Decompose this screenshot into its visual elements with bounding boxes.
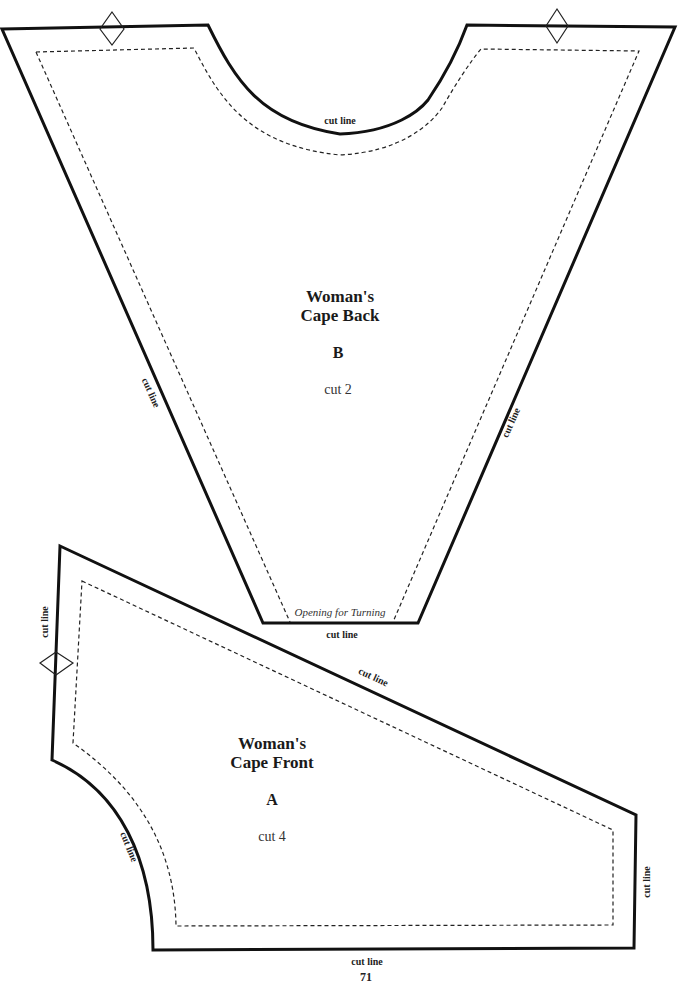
front-cut-count: cut 4: [258, 829, 286, 844]
front-left-cut-label: cut line: [39, 606, 50, 638]
front-title-line2: Cape Front: [230, 753, 314, 772]
cape-back-seam-line-left: [36, 52, 290, 622]
cape-back-piece: cut line cut line cut line cut line Open…: [2, 9, 675, 640]
front-right-cut-label: cut line: [641, 866, 652, 898]
back-title-line1: Woman's: [306, 287, 374, 306]
page-number: 71: [360, 970, 372, 984]
pattern-page: cut line cut line cut line cut line Open…: [0, 0, 678, 986]
front-curve-cut-label: cut line: [118, 830, 140, 864]
back-title-line2: Cape Back: [301, 306, 380, 325]
back-cut-count: cut 2: [324, 382, 352, 397]
back-bottom-cut-label: cut line: [326, 629, 358, 640]
back-piece-letter: B: [333, 344, 344, 361]
front-title-line1: Woman's: [238, 734, 306, 753]
front-bottom-cut-label: cut line: [351, 956, 383, 967]
front-piece-letter: A: [266, 791, 278, 808]
back-left-cut-label: cut line: [140, 376, 163, 410]
back-neck-cut-label: cut line: [324, 115, 356, 126]
front-diagonal-cut-label: cut line: [357, 665, 391, 688]
opening-for-turning-label: Opening for Turning: [294, 606, 386, 618]
back-right-cut-label: cut line: [499, 405, 522, 439]
